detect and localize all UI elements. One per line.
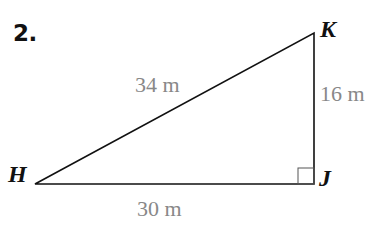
side-label-kj: 16 m [320,81,365,107]
triangle-hjk [35,33,314,184]
side-label-hj: 30 m [137,196,182,222]
vertex-label-k: K [320,16,336,43]
right-angle-marker [298,168,314,184]
side-label-hk: 34 m [135,72,180,98]
vertex-label-j: J [319,165,331,192]
vertex-label-h: H [8,161,27,188]
